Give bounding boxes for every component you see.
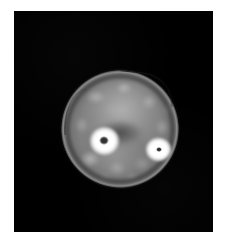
scan-canvas [14, 11, 213, 232]
bone-left [89, 126, 120, 156]
limb-cross-section [61, 70, 179, 188]
bone-right-marrow [156, 147, 162, 152]
figure-alt-text: Axial cross-sectional scan of a limb sho… [0, 0, 1, 1]
figure-root: Axial cross-sectional scan of a limb sho… [0, 0, 228, 249]
bone-left-marrow [99, 136, 109, 145]
